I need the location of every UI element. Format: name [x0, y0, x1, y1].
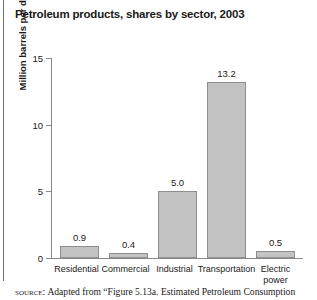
category-label-electric-power-line2: power	[263, 275, 288, 285]
plot-area: 15 10 5 0 0.9 0.4 5.0 13.2 0.5 Residenti…	[51, 58, 303, 258]
y-tick-mark-5	[46, 191, 51, 192]
y-tick-mark-15	[46, 58, 51, 59]
bar-value-industrial: 5.0	[158, 178, 197, 188]
y-tick-label-10: 10	[32, 121, 43, 131]
source-label: source:	[15, 286, 46, 297]
bar-value-transportation: 13.2	[207, 69, 246, 79]
y-tick-label-5: 5	[38, 187, 43, 197]
left-border-rule	[3, 0, 4, 281]
y-axis-line	[51, 58, 52, 258]
bar-industrial	[158, 191, 197, 258]
category-label-electric-power-line1: Electric	[261, 264, 291, 274]
y-tick-label-15: 15	[32, 54, 43, 64]
x-axis-line	[51, 258, 303, 259]
bar-commercial	[109, 253, 148, 258]
bar-value-residential: 0.9	[60, 233, 99, 243]
y-axis-title: Million barrels per day	[17, 0, 28, 105]
page-title: Petroleum products, shares by sector, 20…	[15, 8, 244, 20]
bar-residential	[60, 246, 99, 258]
source-text: Adapted from “Figure 5.13a. Estimated Pe…	[46, 286, 296, 297]
source-note: source: Adapted from “Figure 5.13a. Esti…	[15, 286, 315, 297]
chart-figure: Petroleum products, shares by sector, 20…	[0, 0, 317, 300]
bar-electric-power	[256, 251, 295, 258]
y-tick-mark-10	[46, 125, 51, 126]
y-tick-mark-0	[46, 258, 51, 259]
bar-transportation	[207, 82, 246, 258]
y-tick-label-0: 0	[38, 254, 43, 264]
category-label-electric-power: Electricpower	[246, 264, 305, 285]
bar-value-commercial: 0.4	[109, 240, 148, 250]
bar-value-electric-power: 0.5	[256, 238, 295, 248]
